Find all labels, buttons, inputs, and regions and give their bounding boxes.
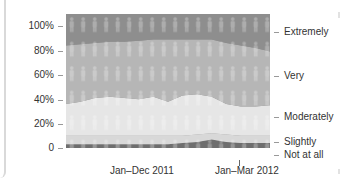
legend-tick <box>274 117 279 118</box>
x-tick-label: Jan–Dec 2011 <box>110 165 174 176</box>
y-tick-label: 80% <box>14 45 54 56</box>
y-tick <box>58 26 63 27</box>
legend-tick <box>274 142 279 143</box>
x-tick-label: Jan–Mar 2012 <box>215 165 279 176</box>
y-tick <box>58 124 63 125</box>
legend-label-very: Very <box>284 70 304 81</box>
legend-label-slightly: Slightly <box>284 136 316 147</box>
frame-mark <box>338 169 340 174</box>
legend-label-not-at-all: Not at all <box>284 149 323 160</box>
frame-mark <box>338 12 340 18</box>
y-tick-label: 60% <box>14 69 54 80</box>
y-tick <box>58 100 63 101</box>
y-tick-label: 40% <box>14 94 54 105</box>
stacked-area-plot <box>66 14 270 160</box>
legend-label-extremely: Extremely <box>284 26 328 37</box>
legend-tick <box>274 155 279 156</box>
legend-tick <box>274 32 279 33</box>
legend-tick <box>274 76 279 77</box>
legend-label-moderately: Moderately <box>284 111 333 122</box>
y-tick <box>58 51 63 52</box>
y-tick <box>58 75 63 76</box>
y-tick-label: 20% <box>14 118 54 129</box>
y-tick-label: 0 <box>14 142 54 153</box>
people-icon-pattern <box>66 14 270 160</box>
y-tick <box>58 148 63 149</box>
y-tick-label: 100% <box>14 20 54 31</box>
page-frame-edge <box>0 0 6 178</box>
